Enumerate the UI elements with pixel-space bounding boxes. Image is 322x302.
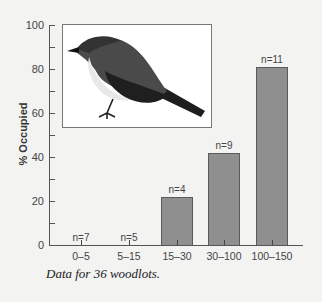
bar-5 (256, 67, 288, 245)
y-tick (49, 245, 55, 246)
y-tick (49, 135, 55, 136)
x-tick (272, 240, 273, 245)
bar-3 (161, 197, 193, 245)
y-tick (49, 157, 55, 158)
bird-photo-inset (62, 24, 212, 128)
y-tick (49, 179, 55, 180)
chart-caption: Data for 36 woodlots. (46, 266, 160, 282)
y-tick (49, 201, 55, 202)
y-tick-label: 80 (20, 63, 44, 75)
y-tick (49, 25, 55, 26)
sample-size-label: n=7 (56, 232, 106, 243)
y-tick-label: 20 (20, 195, 44, 207)
sample-size-label: n=11 (247, 54, 297, 65)
y-tick (49, 223, 55, 224)
x-axis-line (49, 245, 303, 246)
sample-size-label: n=9 (199, 140, 249, 151)
y-tick (49, 113, 55, 114)
bird-icon (63, 25, 211, 127)
y-tick (49, 47, 55, 48)
y-tick-label: 0 (20, 239, 44, 251)
x-category-label: 100–150 (244, 250, 300, 262)
sample-size-label: n=4 (152, 184, 202, 195)
y-axis-title: % Occupied (17, 89, 29, 179)
x-tick (224, 240, 225, 245)
y-tick-label: 100 (20, 19, 44, 31)
y-tick (49, 91, 55, 92)
bar-4 (208, 153, 240, 245)
x-tick (177, 240, 178, 245)
sample-size-label: n=5 (104, 232, 154, 243)
y-tick (49, 69, 55, 70)
